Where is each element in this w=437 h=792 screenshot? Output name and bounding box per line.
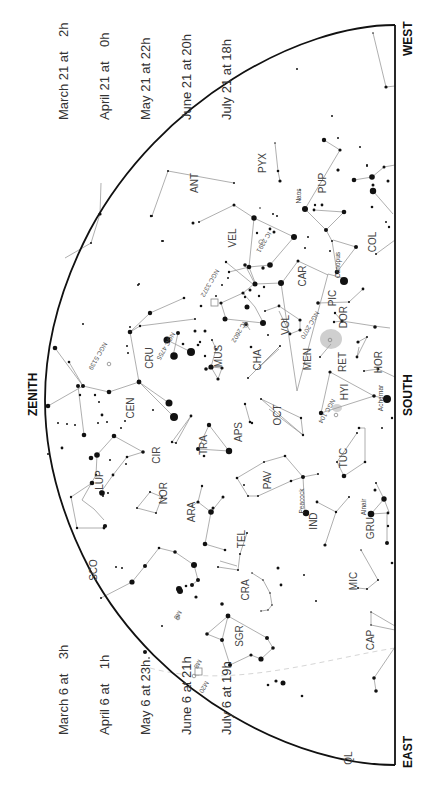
constellation-label: TRA — [198, 435, 209, 455]
constellation-label: PYX — [257, 153, 268, 173]
constellation-label: LUP — [94, 470, 105, 490]
direction-west: WEST — [401, 21, 415, 56]
deep-sky-label: IC 2391 — [255, 231, 273, 255]
date-block-top: March 21 at 2h April 21 at 0h May 21 at … — [30, 22, 248, 120]
deep-sky-label: IC 2602 — [230, 321, 248, 345]
date-line: July 6 at 19h — [220, 645, 234, 735]
date-line: June 21 at 20h — [180, 22, 194, 120]
constellation-label: OCT — [272, 404, 283, 425]
deep-sky-label: NGC 5139 — [87, 341, 109, 371]
star-name-label: Peacock — [298, 488, 305, 514]
constellation-label: HOR — [373, 351, 384, 373]
constellation-label: ANT — [189, 173, 200, 193]
constellation-label: SGR — [234, 625, 245, 647]
constellation-label: CRU — [144, 347, 155, 369]
constellation-label: CAP — [365, 629, 376, 650]
constellation-label: APS — [233, 422, 244, 442]
star-name-label: Canopus — [334, 251, 342, 278]
deep-sky-label: M6 — [173, 610, 184, 622]
constellation-label: MIC — [348, 572, 359, 590]
deep-sky-labels: IC 2391NGC 3372IC 2602NGC 2070NGC 4755NG… — [87, 231, 337, 695]
constellation-label: CIR — [151, 446, 162, 463]
date-line: April 21 at 0h — [98, 22, 112, 120]
constellation-label: CEN — [125, 397, 136, 418]
constellation-label: VOL — [280, 315, 291, 335]
star-name-label: Naos — [295, 188, 302, 204]
constellation-label: MEN — [302, 348, 313, 370]
constellation-label: DOR — [338, 306, 349, 328]
constellation-label: TUC — [338, 448, 349, 469]
star-name-label: Alnair — [360, 498, 367, 515]
constellation-label: TEL — [236, 529, 247, 548]
date-line: June 6 at 21h — [180, 645, 194, 735]
constellation-label: MUS — [213, 345, 224, 368]
constellation-label: PUP — [317, 172, 328, 193]
direction-zenith: ZENITH — [26, 373, 40, 416]
constellation-label: CRA — [240, 579, 251, 600]
constellation-label: VEL — [227, 228, 238, 247]
constellation-label: COL — [367, 231, 378, 252]
deep-sky-markers — [107, 240, 338, 678]
constellation-label: ARA — [186, 501, 197, 522]
constellation-label: HYI — [339, 384, 350, 401]
deep-sky-label: NGC 3372 — [199, 268, 221, 298]
constellation-label: NOR — [158, 482, 169, 504]
date-line: April 6 at 1h — [98, 645, 112, 735]
constellation-label: IND — [308, 512, 319, 529]
direction-south: SOUTH — [401, 374, 415, 416]
direction-east: EAST — [401, 736, 415, 768]
deep-sky-label: NGC 2070 — [299, 310, 321, 340]
date-line: July 21 at 18h — [220, 22, 234, 120]
constellation-label: RET — [337, 352, 348, 372]
star-name-label: Achernar — [377, 384, 384, 411]
constellation-label: GRU — [365, 517, 376, 539]
date-line: May 21 at 22h — [139, 22, 153, 120]
constellation-label: SCO — [88, 559, 99, 581]
constellation-label: PIC — [327, 290, 338, 307]
constellation-label: PAV — [262, 470, 273, 489]
date-line: May 6 at 23h — [139, 645, 153, 735]
constellation-label: QL — [343, 751, 354, 765]
date-line: March 21 at 2h — [57, 22, 71, 120]
date-block-bottom: March 6 at 3h April 6 at 1h May 6 at 23h… — [30, 645, 248, 735]
date-line: March 6 at 3h — [57, 645, 71, 735]
constellation-label: CAR — [297, 265, 308, 286]
constellation-label: CHA — [252, 349, 263, 370]
